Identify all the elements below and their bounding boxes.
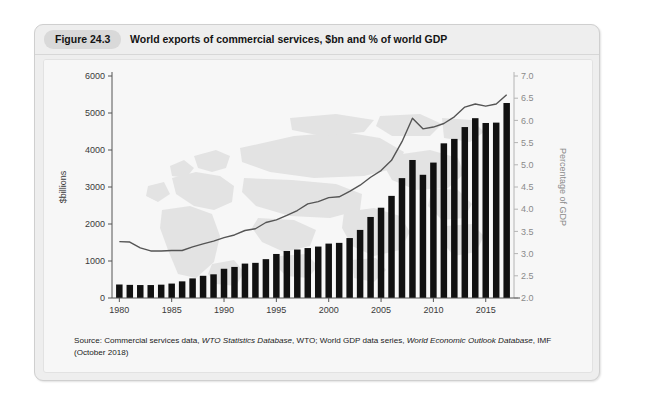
bar (482, 123, 488, 298)
right-axis-tick-label: 4.0 (521, 204, 534, 214)
x-axis-tick-label: 2005 (371, 305, 391, 315)
x-axis-tick-label: 1995 (266, 305, 286, 315)
left-axis-tick-label: 0 (100, 293, 105, 303)
bar (137, 285, 143, 298)
left-axis-tick-label: 3000 (85, 182, 105, 192)
figure-header: Figure 24.3 World exports of commercial … (35, 25, 599, 55)
bar (147, 285, 153, 298)
bar (315, 247, 321, 298)
bar (378, 208, 384, 298)
source-prefix: Source: Commercial services data, (74, 336, 202, 345)
bar (367, 217, 373, 298)
right-axis-tick-label: 3.5 (521, 227, 534, 237)
bar (179, 281, 185, 298)
left-axis-tick-label: 1000 (85, 256, 105, 266)
right-axis-tick-label: 2.5 (521, 271, 534, 281)
x-axis-tick-label: 2010 (423, 305, 443, 315)
bar (388, 196, 394, 298)
x-axis-tick-label: 2015 (476, 305, 496, 315)
bar (242, 264, 248, 298)
source-italic-weo: World Economic Outlook Database (407, 336, 533, 345)
right-axis-tick-label: 4.5 (521, 182, 534, 192)
bar (116, 285, 122, 299)
bar (273, 254, 279, 298)
bar (420, 175, 426, 298)
right-axis-tick-label: 2.0 (521, 293, 534, 303)
source-italic-wto: WTO Statistics Database (202, 336, 292, 345)
left-axis-title: $billions (58, 170, 68, 203)
bar (399, 178, 405, 298)
bar (493, 123, 499, 298)
left-axis-tick-label: 4000 (85, 145, 105, 155)
bar (168, 284, 174, 298)
right-axis-title: Percentage of GDP (558, 148, 568, 226)
x-axis-tick-label: 1980 (109, 305, 129, 315)
bar (284, 251, 290, 298)
figure-title: World exports of commercial services, $b… (130, 30, 447, 49)
bar (263, 259, 269, 298)
bar (221, 269, 227, 298)
bar (346, 238, 352, 298)
x-axis-tick-label: 1985 (162, 305, 182, 315)
combo-chart: 0100020003000400050006000$billions2.02.5… (44, 60, 593, 332)
figure-number-badge: Figure 24.3 (44, 30, 121, 49)
bar (252, 263, 258, 298)
bar (503, 103, 509, 298)
right-axis-tick-label: 5.5 (521, 138, 534, 148)
bar (357, 230, 363, 298)
bar (231, 267, 237, 298)
figure-body: 0100020003000400050006000$billions2.02.5… (43, 59, 593, 373)
left-axis-tick-label: 6000 (85, 71, 105, 81)
bar (305, 248, 311, 298)
bar (210, 274, 216, 298)
bar (200, 276, 206, 298)
bar (409, 160, 415, 298)
chart-plot-area: 0100020003000400050006000$billions2.02.5… (44, 60, 593, 332)
left-axis-tick-label: 5000 (85, 108, 105, 118)
right-axis-tick-label: 6.0 (521, 116, 534, 126)
bar (127, 285, 133, 298)
bar (441, 143, 447, 298)
source-middle: , WTO; World GDP data series, (292, 336, 407, 345)
bar (294, 250, 300, 298)
bar (336, 243, 342, 298)
bar (189, 278, 195, 298)
left-axis-tick-label: 2000 (85, 219, 105, 229)
bar (325, 244, 331, 298)
x-axis-tick-label: 1990 (214, 305, 234, 315)
bar (472, 118, 478, 298)
bar (462, 127, 468, 298)
x-axis-tick-label: 2000 (319, 305, 339, 315)
right-axis-tick-label: 3.0 (521, 249, 534, 259)
source-note: Source: Commercial services data, WTO St… (74, 335, 564, 358)
right-axis-tick-label: 5.0 (521, 160, 534, 170)
right-axis-tick-label: 7.0 (521, 71, 534, 81)
figure-card: Figure 24.3 World exports of commercial … (34, 24, 600, 381)
bar (451, 139, 457, 298)
right-axis-tick-label: 6.5 (521, 93, 534, 103)
bar (430, 163, 436, 298)
bar (158, 285, 164, 298)
